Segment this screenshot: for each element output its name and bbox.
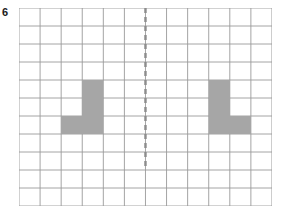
left-figure-cell bbox=[82, 80, 103, 98]
question-number-label: 6 bbox=[2, 6, 8, 18]
right-figure-cell bbox=[209, 116, 230, 134]
right-figure-cell bbox=[209, 98, 230, 116]
square-grid bbox=[19, 8, 272, 206]
right-figure-cell bbox=[230, 116, 251, 134]
left-figure-cell bbox=[82, 116, 103, 134]
grid-lines-svg bbox=[19, 8, 272, 206]
left-figure-cell bbox=[82, 98, 103, 116]
left-figure-cell bbox=[61, 116, 82, 134]
worksheet-page: 6 bbox=[0, 0, 283, 220]
right-figure-cell bbox=[209, 80, 230, 98]
